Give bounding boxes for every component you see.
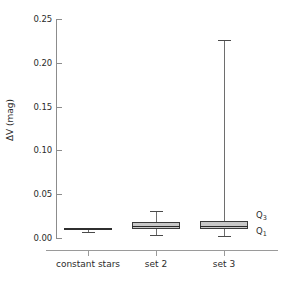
whisker-upper-set-2 bbox=[156, 211, 157, 222]
annotation-q3-main: Q bbox=[256, 210, 263, 220]
annotation-q1: Q1 bbox=[256, 226, 267, 236]
y-tick-0.25 bbox=[57, 19, 62, 20]
y-tick-0.20 bbox=[57, 63, 62, 64]
whisker-cap-upper-set-3 bbox=[218, 40, 231, 41]
whisker-cap-lower-set-3 bbox=[218, 236, 231, 237]
boxplot-figure: ΔV (mag) 0.000.050.100.150.200.25 consta… bbox=[0, 0, 283, 285]
x-tick-set-2 bbox=[156, 251, 157, 256]
x-axis-line bbox=[46, 250, 278, 251]
annotation-q1-sub: 1 bbox=[263, 230, 267, 238]
y-tick-label-wrap: 0.05 bbox=[14, 189, 52, 199]
y-tick-label-0.15: 0.15 bbox=[18, 102, 52, 112]
box-rect-constant-stars bbox=[64, 228, 112, 230]
y-tick-label-0.00: 0.00 bbox=[18, 233, 52, 243]
median-line-set-2 bbox=[132, 226, 180, 227]
annotation-q1-main: Q bbox=[256, 226, 263, 236]
x-axis-label-set-3: set 3 bbox=[213, 259, 235, 269]
y-tick-label-wrap: 0.25 bbox=[14, 14, 52, 24]
y-tick-label-wrap: 0.10 bbox=[14, 145, 52, 155]
x-axis-label-set-2: set 2 bbox=[145, 259, 167, 269]
whisker-cap-upper-set-2 bbox=[150, 211, 163, 212]
whisker-cap-lower-constant-stars bbox=[82, 232, 95, 233]
x-tick-set-3 bbox=[224, 251, 225, 256]
annotation-q3-sub: 3 bbox=[263, 214, 267, 222]
y-tick-0.00 bbox=[57, 238, 62, 239]
whisker-cap-lower-set-2 bbox=[150, 235, 163, 236]
y-tick-label-0.05: 0.05 bbox=[18, 189, 52, 199]
y-tick-0.10 bbox=[57, 150, 62, 151]
y-tick-label-wrap: 0.00 bbox=[14, 233, 52, 243]
y-tick-0.05 bbox=[57, 194, 62, 195]
annotation-q3: Q3 bbox=[256, 210, 267, 220]
y-tick-label-0.25: 0.25 bbox=[18, 14, 52, 24]
whisker-upper-set-3 bbox=[224, 40, 225, 221]
y-tick-label-0.20: 0.20 bbox=[18, 58, 52, 68]
y-tick-0.15 bbox=[57, 107, 62, 108]
y-tick-label-wrap: 0.20 bbox=[14, 58, 52, 68]
y-axis-line bbox=[56, 19, 57, 238]
median-line-set-3 bbox=[200, 226, 248, 227]
x-axis-label-constant-stars: constant stars bbox=[56, 259, 120, 269]
y-tick-label-wrap: 0.15 bbox=[14, 102, 52, 112]
y-tick-label-0.10: 0.10 bbox=[18, 145, 52, 155]
x-tick-constant-stars bbox=[88, 251, 89, 256]
